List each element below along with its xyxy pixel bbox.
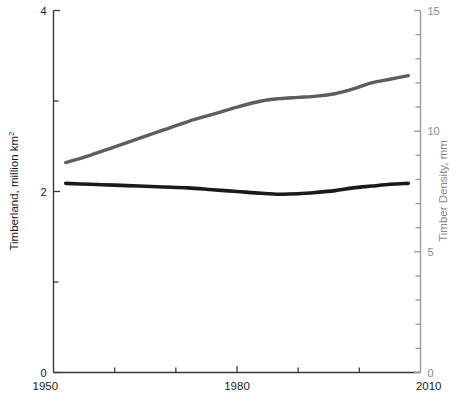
right-axis-tick-label: 10: [428, 125, 440, 137]
dual-axis-line-chart: 024 051015 195019802010 Timberland, mill…: [0, 0, 460, 401]
left-axis-tick-label: 4: [40, 5, 46, 17]
left-axis-title: Timberland, million km2: [7, 131, 20, 251]
chart-background: [0, 0, 460, 401]
left-axis-tick-label: 0: [40, 367, 46, 379]
chart-container: 024 051015 195019802010 Timberland, mill…: [0, 0, 460, 401]
x-axis-tick-label: 1950: [33, 380, 59, 392]
x-axis-tick-label: 1980: [224, 380, 250, 392]
right-axis-tick-label: 5: [428, 246, 434, 258]
svg-text:Timber Density, mm: Timber Density, mm: [437, 140, 449, 242]
right-axis-tick-label: 0: [428, 367, 434, 379]
right-axis-title: Timber Density, mm: [437, 140, 449, 242]
right-axis-tick-label: 15: [428, 5, 440, 17]
left-axis-tick-label: 2: [40, 186, 46, 198]
svg-text:Timberland, million km2: Timberland, million km2: [7, 131, 20, 251]
x-axis-tick-label: 2010: [416, 380, 442, 392]
